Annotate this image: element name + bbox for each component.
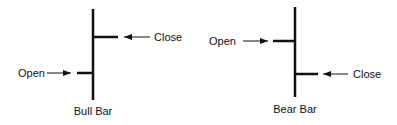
bull-bar-group: Close Open Bull Bar bbox=[18, 9, 182, 117]
bear-bar-group: Open Close Bear Bar bbox=[209, 7, 381, 115]
bull-open-label: Open bbox=[18, 67, 45, 79]
bull-bar-title: Bull Bar bbox=[74, 105, 113, 117]
bear-close-label: Close bbox=[353, 68, 381, 80]
bull-close-label: Close bbox=[154, 31, 182, 43]
ohlc-bar-diagram: Close Open Bull Bar Open Close Bear Bar bbox=[0, 0, 397, 125]
bear-open-label: Open bbox=[209, 35, 236, 47]
bear-bar-title: Bear Bar bbox=[273, 103, 317, 115]
